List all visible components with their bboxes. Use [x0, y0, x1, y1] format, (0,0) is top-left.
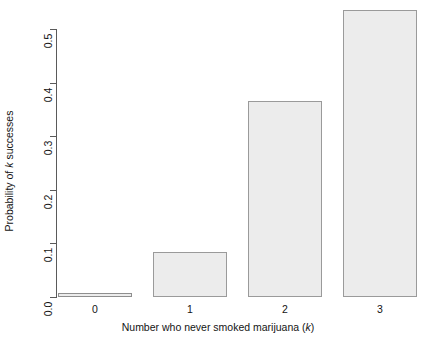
bar-k-2 — [248, 101, 322, 297]
y-axis-title-italic-k: k — [3, 162, 15, 167]
y-axis-title: Probability of k successes — [3, 110, 15, 231]
x-axis-title-prefix: Number who never smoked marijuana ( — [122, 321, 306, 333]
bar-k-3 — [343, 10, 417, 297]
bar-k-0 — [58, 293, 132, 297]
bar-chart-figure: Probability of k successes 0.00.10.20.30… — [0, 0, 436, 341]
x-tick-label-2: 2 — [265, 303, 305, 315]
y-tick-label-0.4: 0.4 — [42, 82, 54, 108]
y-tick-label-container: 0.1 — [22, 236, 48, 250]
x-tick-label-1: 1 — [170, 303, 210, 315]
y-tick-label-0.1: 0.1 — [42, 242, 54, 268]
y-axis-title-suffix: successes — [3, 110, 15, 162]
bar-k-1 — [153, 252, 227, 297]
y-tick-label-0.0: 0.0 — [42, 296, 54, 322]
y-tick-label-container: 0.4 — [22, 76, 48, 90]
y-tick-label-container: 0.5 — [22, 22, 48, 36]
plot-area — [57, 8, 429, 297]
y-tick-label-container: 0.0 — [22, 290, 48, 304]
x-tick-label-3: 3 — [360, 303, 400, 315]
x-tick-label-0: 0 — [75, 303, 115, 315]
y-axis-title-container: Probability of k successes — [0, 0, 18, 341]
y-tick-label-0.2: 0.2 — [42, 189, 54, 215]
y-axis-title-prefix: Probability of — [3, 167, 15, 231]
x-axis-title: Number who never smoked marijuana (k) — [0, 321, 436, 333]
y-tick-label-0.3: 0.3 — [42, 135, 54, 161]
x-axis-title-suffix: ) — [311, 321, 315, 333]
y-tick-label-0.5: 0.5 — [42, 28, 54, 54]
y-tick-label-container: 0.3 — [22, 129, 48, 143]
y-tick-label-container: 0.2 — [22, 183, 48, 197]
